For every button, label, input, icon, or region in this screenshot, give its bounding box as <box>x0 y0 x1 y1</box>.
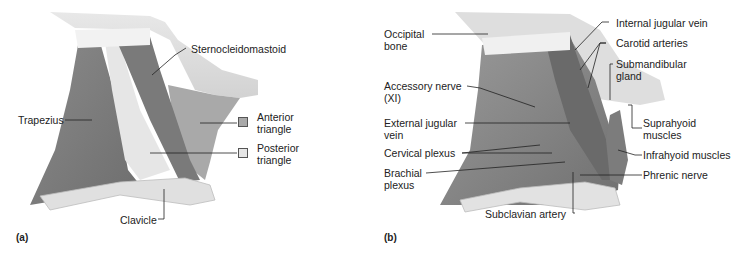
label-phrenic-nerve: Phrenic nerve <box>643 169 708 181</box>
label-anterior-triangle-line2: triangle <box>257 123 291 135</box>
label-anterior-triangle-line1: Anterior <box>257 111 294 123</box>
label-submandibular-line2: gland <box>616 70 642 82</box>
label-occipital-line2: bone <box>384 40 407 52</box>
label-brachial-line1: Brachial <box>384 167 422 179</box>
label-suprahyoid-line2: muscles <box>643 129 682 141</box>
neck-illustration-a <box>0 0 370 255</box>
label-external-jugular-line2: vein <box>384 129 403 141</box>
panel-a-neck-muscles: Sternocleidomastoid Trapezius Clavicle A… <box>0 0 370 255</box>
label-cervical-plexus: Cervical plexus <box>384 147 455 159</box>
posterior-triangle-swatch <box>238 148 248 158</box>
label-carotid-arteries: Carotid arteries <box>616 37 688 49</box>
label-external-jugular-line1: External jugular <box>384 117 457 129</box>
label-accessory-line1: Accessory nerve <box>384 80 462 92</box>
label-subclavian-artery: Subclavian artery <box>485 208 566 220</box>
anterior-triangle-swatch <box>238 117 248 127</box>
label-posterior-triangle-line1: Posterior <box>257 142 299 154</box>
label-brachial-line2: plexus <box>384 179 414 191</box>
label-clavicle: Clavicle <box>120 214 157 226</box>
label-posterior-triangle-line2: triangle <box>257 154 291 166</box>
label-sternocleidomastoid: Sternocleidomastoid <box>191 43 286 55</box>
panel-label-a: (a) <box>16 232 28 243</box>
panel-label-b: (b) <box>384 232 397 243</box>
label-trapezius: Trapezius <box>18 114 64 126</box>
label-internal-jugular: Internal jugular vein <box>616 17 708 29</box>
label-occipital-line1: Occipital <box>384 28 424 40</box>
label-infrahyoid: Infrahyoid muscles <box>643 149 731 161</box>
label-submandibular-line1: Submandibular <box>616 58 687 70</box>
label-accessory-line2: (XI) <box>384 92 401 104</box>
panel-b-neck-structures: Occipital bone Accessory nerve (XI) Exte… <box>370 0 743 255</box>
label-suprahyoid-line1: Suprahyoid <box>643 117 696 129</box>
